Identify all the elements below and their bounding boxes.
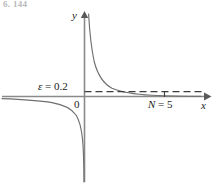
x-axis-label: x (201, 100, 206, 111)
y-axis-label: y (72, 10, 77, 21)
n-annotation-label: N = 5 (148, 99, 173, 110)
n-equals: = (155, 98, 167, 110)
curve-branch-negative (2, 99, 84, 182)
origin-label: 0 (74, 99, 80, 110)
epsilon-annotation-label: ε = 0.2 (38, 81, 68, 92)
epsilon-value: 0.2 (54, 80, 68, 92)
page-corner-text: 6. 144 (3, 0, 27, 9)
curve-branch-positive (89, 14, 201, 96)
function-plot (0, 0, 215, 183)
n-value: 5 (167, 98, 173, 110)
limit-figure: 6. 144 y x 0 ε = 0.2 N = 5 (0, 0, 215, 183)
y-axis-arrowhead (81, 11, 88, 18)
epsilon-equals: = (42, 80, 54, 92)
